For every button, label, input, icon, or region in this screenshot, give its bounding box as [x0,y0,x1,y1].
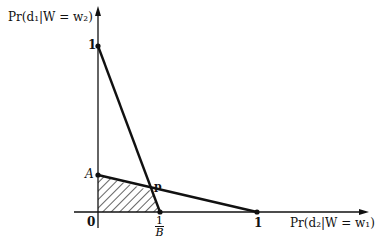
origin-label: 0 [87,215,95,229]
point-x1 [254,209,259,214]
x-axis-label: Pr(d₂|W = w₁) [290,216,375,230]
diagram-graphic [0,0,386,247]
y-tick-A: A [85,167,94,181]
point-A [95,172,100,177]
y-tick-1: 1 [88,38,96,52]
frac-denominator: B [155,227,164,238]
point-p-label: p [154,180,162,193]
diagram: Pr(d₁|W = w₂) 1 A 0 p 1 B 1 Pr(d₂|W = w₁… [0,0,386,247]
y-axis-arrow [95,6,101,16]
x-tick-1-over-B: 1 B [155,215,164,238]
x-axis-arrow [359,209,369,215]
x-tick-1: 1 [254,216,262,230]
y-axis-label: Pr(d₁|W = w₂) [8,10,93,24]
shaded-region [98,175,160,212]
